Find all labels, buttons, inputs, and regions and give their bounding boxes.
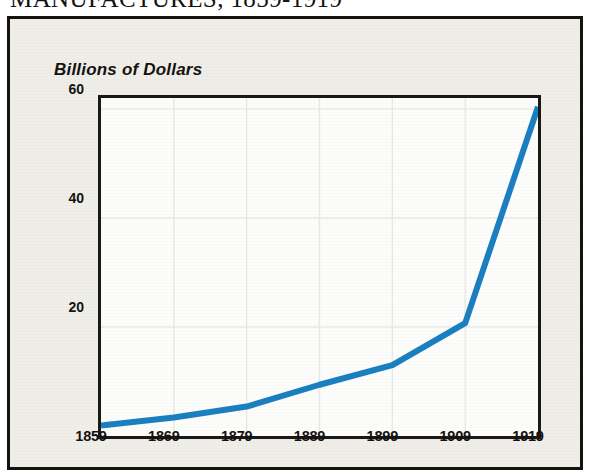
line-chart-svg <box>101 98 538 436</box>
figure-frame: Billions of Dollars <box>7 16 583 470</box>
page-title: MANUFACTURES, 1859-1919 <box>10 0 570 12</box>
x-tick-label: 1859 <box>56 428 126 444</box>
x-tick-label: 1889 <box>275 428 345 444</box>
x-axis-ticks: 1859186918791889189919091919 <box>0 428 599 454</box>
y-axis-ticks: 204060 <box>34 0 84 475</box>
y-tick-label: 20 <box>38 299 84 315</box>
x-tick-label: 1919 <box>493 428 563 444</box>
x-tick-label: 1909 <box>420 428 490 444</box>
y-tick-label: 60 <box>38 81 84 97</box>
x-tick-label: 1869 <box>129 428 199 444</box>
x-tick-label: 1899 <box>347 428 417 444</box>
x-tick-label: 1879 <box>202 428 272 444</box>
y-tick-label: 40 <box>38 190 84 206</box>
plot-area <box>98 95 541 439</box>
